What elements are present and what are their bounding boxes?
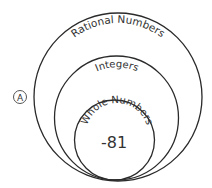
value-label: -81 <box>101 133 127 152</box>
whole-numbers-label: Whole Numbers <box>79 94 156 126</box>
venn-diagram-figure: A Rational Numbers Integers Whole Number… <box>0 0 212 188</box>
rational-numbers-label: Rational Numbers <box>68 13 167 40</box>
integers-label: Integers <box>93 58 140 73</box>
integers-circle <box>55 56 179 180</box>
option-a-marker[interactable]: A <box>14 91 27 104</box>
option-label: A <box>17 93 24 103</box>
